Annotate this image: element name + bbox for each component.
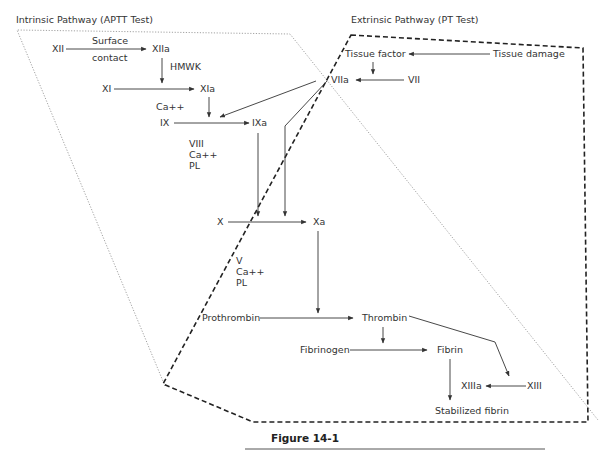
label-surface: Surface xyxy=(92,35,128,46)
label-hmwk: HMWK xyxy=(170,61,201,72)
extrinsic-pathway-title: Extrinsic Pathway (PT Test) xyxy=(351,14,479,25)
node-thrombin: Thrombin xyxy=(362,312,407,323)
extrinsic-pathway-boundary xyxy=(163,35,588,422)
node-vii: VII xyxy=(408,74,420,85)
node-xii: XII xyxy=(52,43,64,54)
node-xia: XIa xyxy=(200,83,215,94)
label-pl-2: PL xyxy=(236,277,247,288)
node-fibrin: Fibrin xyxy=(437,344,463,355)
arrow-viia-to-ix-line xyxy=(220,81,316,117)
node-xi: XI xyxy=(102,83,111,94)
node-viia: VIIa xyxy=(331,74,349,85)
node-stabilized-fibrin: Stabilized fibrin xyxy=(435,405,509,416)
node-x: X xyxy=(217,216,224,227)
figure-caption: Figure 14-1 xyxy=(271,432,339,444)
node-xiiia: XIIIa xyxy=(461,380,482,391)
label-contact: contact xyxy=(92,52,128,63)
label-ca-2: Ca++ xyxy=(189,149,217,160)
label-ca-3: Ca++ xyxy=(236,266,264,277)
coagulation-cascade-diagram xyxy=(0,0,608,459)
label-v: V xyxy=(236,255,243,266)
label-pl-1: PL xyxy=(189,160,200,171)
node-ix: IX xyxy=(160,117,169,128)
node-xiii: XIII xyxy=(527,380,542,391)
node-fibrinogen: Fibrinogen xyxy=(300,344,350,355)
node-prothrombin: Prothrombin xyxy=(202,312,260,323)
arrow-viia-to-x-line xyxy=(285,81,327,216)
label-viii: VIII xyxy=(189,138,204,149)
label-ca-1: Ca++ xyxy=(156,101,184,112)
intrinsic-pathway-title: Intrinsic Pathway (APTT Test) xyxy=(16,14,153,25)
node-xiia: XIIa xyxy=(152,43,170,54)
node-ixa: IXa xyxy=(252,117,267,128)
node-tissue-damage: Tissue damage xyxy=(493,48,565,59)
node-tissue-factor: Tissue factor xyxy=(345,48,406,59)
node-xa: Xa xyxy=(313,216,325,227)
